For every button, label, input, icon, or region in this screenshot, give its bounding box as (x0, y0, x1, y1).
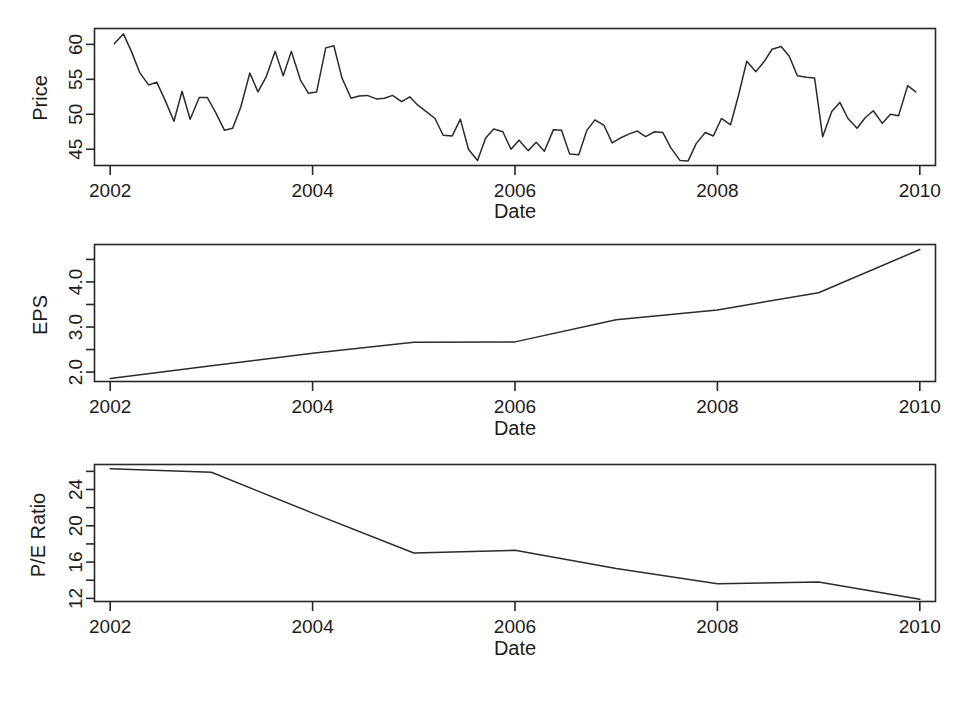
pe-ratio-chart-svg: 12162024 20022004200620082010 P/E Ratio … (0, 440, 965, 701)
y-tick-label: 3.0 (65, 314, 86, 340)
x-tick-label: 2010 (899, 396, 941, 417)
eps-y-minor-tick-marks (86, 259, 95, 349)
x-tick-label: 2008 (696, 180, 738, 201)
panel-pe-ratio: 12162024 20022004200620082010 P/E Ratio … (0, 440, 965, 701)
x-tick-label: 2002 (89, 396, 131, 417)
multi-panel-figure: 45505560 20022004200620082010 Price Date… (0, 0, 965, 701)
x-tick-label: 2006 (494, 180, 536, 201)
pe-ratio-series-line (110, 469, 920, 600)
eps-y-tick-labels: 2.03.04.0 (65, 269, 86, 386)
y-tick-label: 45 (65, 139, 86, 160)
price-y-axis-title: Price (29, 75, 51, 121)
price-y-tick-marks (86, 44, 95, 149)
x-tick-label: 2010 (899, 616, 941, 637)
x-tick-label: 2008 (696, 616, 738, 637)
y-tick-label: 60 (65, 34, 86, 55)
pe-x-tick-labels: 20022004200620082010 (89, 616, 941, 637)
pe-x-axis-title: Date (494, 637, 536, 659)
y-tick-label: 12 (65, 588, 86, 609)
eps-x-tick-labels: 20022004200620082010 (89, 396, 941, 417)
eps-y-axis-title: EPS (29, 295, 51, 335)
x-tick-label: 2002 (89, 616, 131, 637)
y-tick-label: 16 (65, 552, 86, 573)
x-tick-label: 2008 (696, 396, 738, 417)
y-tick-label: 24 (65, 479, 86, 501)
eps-plot-frame (95, 245, 936, 382)
y-tick-label: 4.0 (65, 269, 86, 295)
price-y-tick-labels: 45505560 (65, 34, 86, 160)
x-tick-label: 2002 (89, 180, 131, 201)
price-x-tick-marks (110, 166, 920, 175)
x-tick-label: 2006 (494, 616, 536, 637)
eps-x-axis-title: Date (494, 417, 536, 439)
y-tick-label: 50 (65, 104, 86, 125)
y-tick-label: 55 (65, 69, 86, 90)
x-tick-label: 2004 (291, 396, 334, 417)
pe-y-tick-labels: 12162024 (65, 479, 86, 609)
y-tick-label: 20 (65, 515, 86, 536)
panel-eps: 2.03.04.0 20022004200620082010 EPS Date (0, 220, 965, 453)
pe-x-tick-marks (110, 602, 920, 611)
pe-plot-frame (95, 465, 936, 602)
eps-x-tick-marks (110, 382, 920, 391)
eps-y-tick-marks (86, 282, 95, 372)
x-tick-label: 2004 (291, 180, 334, 201)
price-x-tick-labels: 20022004200620082010 (89, 180, 941, 201)
y-tick-label: 2.0 (65, 359, 86, 385)
panel-price: 45505560 20022004200620082010 Price Date (0, 0, 965, 233)
x-tick-label: 2010 (899, 180, 941, 201)
pe-y-axis-title: P/E Ratio (27, 493, 49, 577)
x-tick-label: 2004 (291, 616, 334, 637)
eps-series-line (110, 250, 920, 379)
eps-chart-svg: 2.03.04.0 20022004200620082010 EPS Date (0, 220, 965, 453)
x-tick-label: 2006 (494, 396, 536, 417)
price-x-axis-title: Date (494, 200, 536, 222)
price-chart-svg: 45505560 20022004200620082010 Price Date (0, 0, 965, 233)
price-series-line (114, 34, 916, 161)
